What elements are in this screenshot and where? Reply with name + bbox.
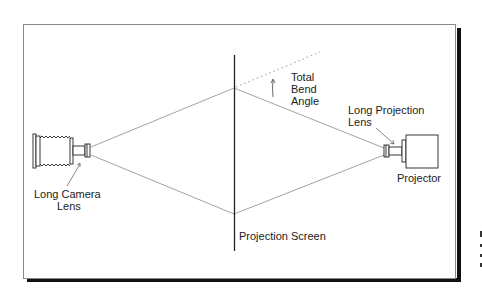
camera-lens-label-line2: Lens bbox=[57, 200, 81, 212]
bend-angle-label-line3: Angle bbox=[291, 95, 319, 107]
projection-lens-label-line2: Lens bbox=[348, 116, 372, 128]
projection-screen-label: Projection Screen bbox=[239, 230, 326, 242]
diagram-canvas: Long Camera Lens Total Bend Angle Long P… bbox=[0, 0, 482, 297]
projector-label: Projector bbox=[397, 172, 441, 184]
camera-lens-label-line1: Long Camera bbox=[34, 188, 102, 200]
projection-lens-label-line1: Long Projection bbox=[348, 104, 424, 116]
bend-angle-label-line2: Bend bbox=[291, 83, 317, 95]
bend-angle-label-line1: Total bbox=[291, 71, 314, 83]
